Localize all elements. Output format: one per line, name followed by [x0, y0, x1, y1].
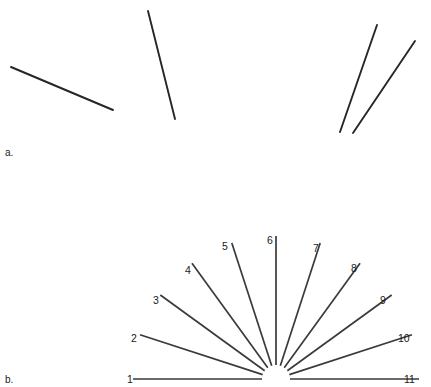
fan-spoke-label-1: 1: [127, 373, 133, 385]
fan-spoke-label-10: 10: [398, 332, 410, 344]
panel-b-label: b.: [5, 374, 13, 385]
figure-canvas: a. 1234567891011 b.: [0, 0, 431, 387]
fan-spoke-label-8: 8: [351, 262, 357, 274]
fan-spoke-label-7: 7: [313, 242, 319, 254]
fan-spoke-label-4: 4: [185, 264, 191, 276]
fan-spoke-label-11: 11: [404, 373, 415, 385]
fan-spoke-label-5: 5: [222, 240, 228, 252]
fan-spoke-label-2: 2: [131, 332, 137, 344]
fan-spoke-label-9: 9: [380, 294, 386, 306]
figure-root: a. 1234567891011 b.: [0, 0, 431, 387]
panel-a-label: a.: [5, 147, 13, 158]
fan-spoke-label-6: 6: [267, 234, 273, 246]
fan-spoke-label-3: 3: [153, 294, 159, 306]
